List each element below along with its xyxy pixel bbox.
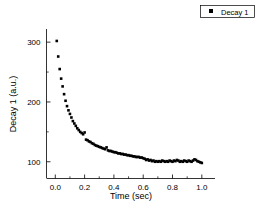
data-point xyxy=(70,116,73,119)
x-tick-label: 0.2 xyxy=(79,183,91,192)
y-axis-tick-labels: 100200300 xyxy=(27,38,41,167)
legend-label-decay-1: Decay 1 xyxy=(221,8,249,17)
data-point xyxy=(58,68,61,71)
x-tick-label: 1.0 xyxy=(196,183,208,192)
figure-container: 0.00.20.40.60.81.0 100200300 Time (sec) … xyxy=(0,0,267,220)
x-tick-label: 0.8 xyxy=(167,183,179,192)
data-point xyxy=(64,99,67,102)
decay-chart: 0.00.20.40.60.81.0 100200300 Time (sec) … xyxy=(0,0,267,220)
data-point xyxy=(66,105,69,108)
data-point xyxy=(105,146,108,149)
y-tick-label: 300 xyxy=(27,38,41,47)
x-axis-ticks xyxy=(55,175,202,179)
x-axis-title: Time (sec) xyxy=(110,191,152,201)
data-point xyxy=(63,93,66,96)
data-point xyxy=(73,122,76,125)
data-point xyxy=(60,77,63,80)
data-point xyxy=(201,162,204,165)
data-point xyxy=(75,125,78,128)
legend[interactable]: Decay 1 xyxy=(201,6,255,18)
figure-caption xyxy=(0,208,267,220)
data-point xyxy=(67,109,70,112)
data-point xyxy=(83,131,86,134)
data-series-decay-1 xyxy=(55,40,203,165)
data-point xyxy=(61,85,64,88)
y-tick-label: 200 xyxy=(27,98,41,107)
y-tick-label: 100 xyxy=(27,158,41,167)
data-point xyxy=(55,40,58,43)
y-axis-ticks xyxy=(47,42,51,162)
data-point xyxy=(69,113,72,116)
data-point xyxy=(57,55,60,58)
data-point xyxy=(72,120,75,123)
y-axis-title: Decay 1 (a.u.) xyxy=(8,76,18,133)
legend-marker-square xyxy=(209,9,213,13)
x-tick-label: 0.0 xyxy=(50,183,62,192)
